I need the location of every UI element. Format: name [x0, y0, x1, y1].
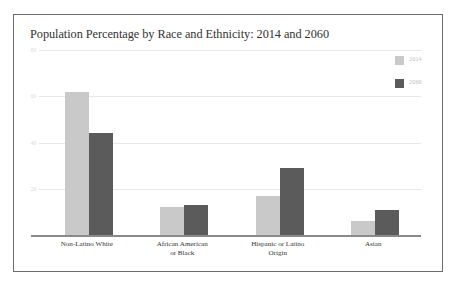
category-label-line: Origin — [220, 249, 336, 258]
bar-2060[interactable] — [280, 168, 304, 235]
plot-area: 20406080 Non-Latino WhiteAfrican America… — [39, 41, 421, 235]
bar-group — [160, 41, 208, 235]
bar-2060[interactable] — [375, 210, 399, 235]
chart-title: Population Percentage by Race and Ethnic… — [30, 27, 329, 42]
bar-2014[interactable] — [256, 196, 280, 235]
category-label-line: Asian — [316, 240, 432, 249]
legend-label-2060: 2060 — [409, 79, 422, 85]
x-axis-line — [31, 235, 421, 237]
y-axis-tick-label: 80 — [31, 47, 36, 53]
bar-2014[interactable] — [65, 92, 89, 235]
bar-2060[interactable] — [184, 205, 208, 235]
legend-label-2014: 2014 — [409, 56, 422, 62]
legend-swatch-2060 — [395, 79, 404, 88]
bar-group — [351, 41, 399, 235]
y-axis-tick-label: 40 — [31, 140, 36, 146]
legend-swatch-2014 — [395, 56, 404, 65]
y-axis-tick-label: 60 — [31, 93, 36, 99]
bar-group — [256, 41, 304, 235]
bar-2014[interactable] — [351, 221, 375, 235]
y-axis-tick-label: 20 — [31, 186, 36, 192]
bar-group — [65, 41, 113, 235]
bar-2014[interactable] — [160, 207, 184, 235]
bar-2060[interactable] — [89, 133, 113, 235]
category-label: Asian — [316, 240, 432, 249]
chart-figure-frame: Population Percentage by Race and Ethnic… — [13, 14, 443, 272]
